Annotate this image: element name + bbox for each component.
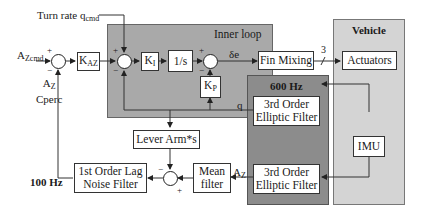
plus-sign: + [47, 46, 52, 55]
imu-block: IMU [353, 136, 385, 157]
kp-gain-block: KP [200, 76, 221, 98]
ki-gain-block: KI [141, 52, 159, 71]
az-cperc-label: AZ Cperc [36, 77, 62, 105]
minus-sign: − [113, 66, 118, 75]
sum-junction-accel [163, 171, 178, 186]
q-signal-label: q [237, 99, 243, 111]
plus-sign: + [113, 46, 118, 55]
sum-junction-pi [203, 54, 218, 69]
lever-arm-block: Lever Arm*s [133, 130, 200, 149]
lag-filter-block: 1st Order LagNoise Filter [74, 163, 147, 193]
elliptic-filter-bottom-block: 3rd OrderElliptic Filter [253, 164, 320, 194]
kaz-gain-block: KAZ [77, 52, 100, 71]
plus-sign: + [177, 186, 182, 195]
plus-sign: + [199, 46, 204, 55]
minus-sign: − [199, 66, 204, 75]
minus-sign: − [158, 165, 163, 174]
bus-width-label: 3 [321, 44, 326, 56]
minus-sign: − [47, 66, 52, 75]
integrator-block: 1/s [168, 50, 193, 72]
mean-filter-block: Meanfilter [193, 163, 231, 193]
fin-mixing-block: Fin Mixing [258, 51, 314, 70]
az-signal-label: AZ [233, 166, 246, 182]
sum-junction-rate [117, 54, 132, 69]
turn-rate-label: Turn rate qcmd [37, 9, 99, 25]
az-cmd-label: AZcmd [17, 49, 44, 65]
elliptic-filter-top-block: 3rd OrderElliptic Filter [253, 96, 320, 126]
actuators-block: Actuators [342, 51, 397, 70]
sum-junction-outer [51, 54, 66, 69]
delta-e-label: δe [229, 48, 239, 60]
